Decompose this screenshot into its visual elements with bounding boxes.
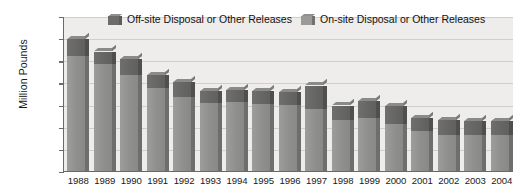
bar-column[interactable] <box>438 120 456 172</box>
bar-column[interactable] <box>147 75 165 172</box>
bar-segment-on-site[interactable] <box>67 56 85 172</box>
x-axis-labels: 1988198919901991199219931994199519961997… <box>63 175 513 191</box>
bar-column[interactable] <box>305 86 323 172</box>
bar-segment-off-site[interactable] <box>94 52 112 65</box>
y-axis-tick <box>59 172 64 173</box>
bar-segment-off-site[interactable] <box>411 118 429 131</box>
bar-side-face-on-site <box>244 102 248 172</box>
bar-segment-on-site[interactable] <box>358 118 376 172</box>
legend-item[interactable]: On-site Disposal or Other Releases <box>301 13 485 25</box>
bar-column[interactable] <box>252 91 270 172</box>
bar-segment-off-site[interactable] <box>358 101 376 117</box>
bar-segment-on-site[interactable] <box>332 120 350 172</box>
y-axis-title: Million Pounds <box>17 19 29 129</box>
bar-side-face-off-site <box>376 101 380 117</box>
bar-side-face-on-site <box>270 104 274 172</box>
bar-segment-on-site[interactable] <box>173 97 191 172</box>
bar-segment-on-site[interactable] <box>147 88 165 172</box>
bar-side-face-off-site <box>297 92 301 105</box>
off-site-swatch <box>108 14 121 25</box>
legend-item[interactable]: Off-site Disposal or Other Releases <box>108 13 292 25</box>
bar-side-face-on-site <box>323 109 327 172</box>
legend-swatch-side <box>119 16 122 25</box>
bar-segment-on-site[interactable] <box>200 103 218 172</box>
bar-side-face-on-site <box>350 120 354 172</box>
bar-column[interactable] <box>226 90 244 172</box>
bar-side-face-on-site <box>456 135 460 172</box>
bar-column[interactable] <box>385 106 403 172</box>
bar-segment-on-site[interactable] <box>94 64 112 172</box>
bar-side-face-on-site <box>218 103 222 172</box>
bar-segment-on-site[interactable] <box>411 131 429 172</box>
bar-segment-off-site[interactable] <box>279 92 297 105</box>
bar-segment-on-site[interactable] <box>464 135 482 172</box>
legend-label: On-site Disposal or Other Releases <box>320 13 485 25</box>
bar-column[interactable] <box>411 118 429 172</box>
bar-column[interactable] <box>332 106 350 172</box>
plot-area <box>63 17 513 172</box>
bar-column[interactable] <box>279 92 297 172</box>
bar-side-face-off-site <box>270 91 274 103</box>
bar-segment-off-site[interactable] <box>200 91 218 103</box>
bar-segment-off-site[interactable] <box>464 121 482 135</box>
bar-series-group <box>64 17 513 172</box>
legend-swatch-face <box>301 16 312 25</box>
bar-segment-off-site[interactable] <box>226 90 244 102</box>
bar-side-face-off-site <box>482 121 486 135</box>
bar-segment-on-site[interactable] <box>252 104 270 172</box>
legend-swatch-face <box>108 16 119 25</box>
bar-segment-off-site[interactable] <box>252 91 270 103</box>
bar-segment-off-site[interactable] <box>332 106 350 121</box>
bar-side-face-on-site <box>112 64 116 172</box>
bar-side-face-on-site <box>165 88 169 172</box>
bar-side-face-off-site <box>350 106 354 121</box>
bar-side-face-off-site <box>509 121 513 135</box>
bar-side-face-on-site <box>429 131 433 172</box>
bar-segment-on-site[interactable] <box>279 105 297 172</box>
bar-column[interactable] <box>120 59 138 172</box>
bar-segment-off-site[interactable] <box>491 121 509 135</box>
bar-side-face-off-site <box>112 52 116 65</box>
on-site-swatch <box>301 14 314 25</box>
bar-column[interactable] <box>67 39 85 172</box>
bar-segment-on-site[interactable] <box>438 135 456 172</box>
bar-side-face-off-site <box>191 82 195 97</box>
chart-container: Million Pounds 3,5003,0002,5002,0001,500… <box>0 0 525 195</box>
bar-segment-off-site[interactable] <box>305 86 323 109</box>
bar-segment-on-site[interactable] <box>491 135 509 172</box>
chart-legend: Off-site Disposal or Other ReleasesOn-si… <box>63 13 513 31</box>
bar-segment-on-site[interactable] <box>385 124 403 172</box>
bar-segment-off-site[interactable] <box>120 59 138 75</box>
bar-side-face-off-site <box>138 59 142 75</box>
bar-segment-off-site[interactable] <box>438 120 456 135</box>
bar-segment-off-site[interactable] <box>147 75 165 88</box>
bar-side-face-on-site <box>138 75 142 172</box>
bar-side-face-off-site <box>85 39 89 56</box>
x-axis-line <box>63 171 513 172</box>
bar-segment-on-site[interactable] <box>226 102 244 172</box>
bar-column[interactable] <box>173 82 191 172</box>
bar-segment-off-site[interactable] <box>173 82 191 97</box>
bar-side-face-on-site <box>191 97 195 172</box>
bar-side-face-on-site <box>297 105 301 172</box>
bar-side-face-off-site <box>165 75 169 88</box>
bar-column[interactable] <box>94 52 112 172</box>
bar-side-face-on-site <box>85 56 89 172</box>
bar-side-face-off-site <box>403 106 407 124</box>
bar-side-face-on-site <box>482 135 486 172</box>
bar-column[interactable] <box>464 121 482 172</box>
bar-column[interactable] <box>358 101 376 172</box>
bar-side-face-off-site <box>456 120 460 135</box>
bar-segment-on-site[interactable] <box>120 75 138 172</box>
bar-column[interactable] <box>200 91 218 172</box>
bar-side-face-off-site <box>323 86 327 109</box>
bar-segment-on-site[interactable] <box>305 109 323 172</box>
bar-column[interactable] <box>491 121 509 172</box>
bar-side-face-on-site <box>403 124 407 172</box>
bar-segment-off-site[interactable] <box>385 106 403 124</box>
bar-side-face-on-site <box>509 135 513 172</box>
bar-segment-off-site[interactable] <box>67 39 85 56</box>
bar-side-face-off-site <box>429 118 433 131</box>
x-axis-tick-label: 2004 <box>487 175 517 186</box>
legend-swatch-side <box>312 16 315 25</box>
